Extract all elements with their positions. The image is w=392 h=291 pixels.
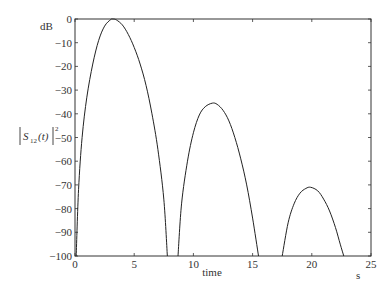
y-tick-label: −90	[55, 226, 73, 238]
y-tick-label: −10	[55, 37, 73, 49]
curve-lobe-2	[178, 103, 259, 256]
y-label-base: S	[23, 130, 29, 142]
y-tick-label: −60	[55, 155, 73, 167]
y-tick-label: −80	[55, 203, 73, 215]
curve-lobe-3	[282, 187, 344, 256]
y-tick-label: −50	[55, 132, 73, 144]
y-tick-label: −20	[55, 60, 73, 72]
x-tick-label: 20	[306, 258, 318, 270]
axes-box	[75, 19, 371, 256]
y-axis-label: S 12 (t) 2	[20, 125, 59, 145]
x-tick-label: 5	[131, 258, 137, 270]
y-label-argument: (t)	[38, 130, 49, 143]
y-tick-label: −100	[49, 250, 72, 262]
y-unit-label: dB	[40, 20, 53, 32]
x-tick-label: 0	[72, 258, 78, 270]
plot-frame	[75, 19, 371, 256]
y-label-subscript: 12	[30, 137, 38, 145]
x-tick-label: 10	[188, 258, 200, 270]
curve-lobe-1	[76, 19, 167, 256]
x-tick-label: 25	[366, 258, 378, 270]
y-label-superscript: 2	[55, 125, 59, 133]
y-tick-label: 0	[67, 13, 73, 25]
y-axis-ticks: 0−10−20−30−40−50−60−70−80−90−100	[49, 13, 371, 262]
x-unit-label: s	[356, 269, 360, 281]
y-tick-label: −30	[55, 84, 73, 96]
y-tick-label: −40	[55, 108, 73, 120]
chart: 0510152025 0−10−20−30−40−50−60−70−80−90−…	[0, 0, 392, 291]
x-tick-label: 15	[247, 258, 259, 270]
x-axis-ticks: 0510152025	[72, 19, 377, 270]
data-curves	[76, 19, 344, 256]
x-axis-label: time	[202, 266, 222, 278]
y-tick-label: −70	[55, 179, 73, 191]
